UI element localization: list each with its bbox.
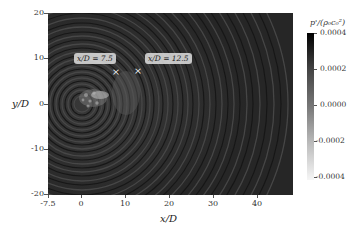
probe-marker-icon: × [112,67,120,77]
x-tick-label: -7.5 [40,199,55,208]
y-tickmark [44,104,48,105]
x-tickmark [81,195,82,198]
colorbar-title: p'/(ρ₀c₀²) [310,18,345,27]
x-tick-label: 10 [120,199,130,208]
pressure-field-plot [48,13,293,195]
pressure-field-image [48,13,293,195]
x-tickmark [169,195,170,198]
y-tick-label: -10 [31,144,44,153]
x-tick-label: 0 [78,199,83,208]
y-axis-label: y/D [12,98,29,109]
x-tickmark [125,195,126,198]
x-tickmark [257,195,258,198]
colorbar [307,33,314,180]
y-tickmark [44,13,48,14]
annotation-x-7-5: x/D = 7.5 [74,53,116,64]
probe-marker-icon: × [134,66,142,76]
x-tick-label: 30 [208,199,218,208]
colorbar-tickmark [314,105,317,106]
y-tick-label: 10 [34,53,44,62]
y-tickmark [44,58,48,59]
y-tick-label: 20 [34,8,44,17]
colorbar-tick-label: 0.0002 [320,64,346,73]
colorbar-tick-label: 0.0000 [320,100,346,109]
y-tickmark [44,149,48,150]
colorbar-tickmark [314,69,317,70]
x-tickmark [48,195,49,198]
colorbar-tick-label: -0.0004 [316,172,345,181]
x-tick-label: 20 [164,199,174,208]
x-axis-label: x/D [160,213,177,224]
x-tick-label: 40 [252,199,262,208]
colorbar-tick-label: -0.0002 [316,136,345,145]
y-tick-label: 0 [39,99,44,108]
annotation-x-12-5: x/D = 12.5 [145,53,192,64]
y-tick-label: -20 [31,189,44,198]
colorbar-tickmark [314,33,317,34]
colorbar-tick-label: 0.0004 [320,28,346,37]
x-tickmark [213,195,214,198]
